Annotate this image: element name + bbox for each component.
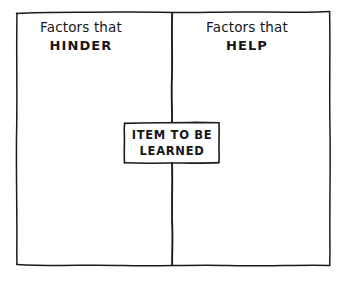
center-box-top-edge (125, 122, 219, 123)
column-label-hinder: Factors that HINDER (18, 21, 144, 52)
center-box-line1: ITEM TO BE (132, 128, 213, 144)
frame-left-edge (16, 13, 17, 264)
column-label-help-line2: HELP (186, 39, 308, 52)
column-label-hinder-line1: Factors that (18, 21, 144, 35)
center-box-line2: LEARNED (140, 144, 205, 160)
frame-right-edge (330, 12, 331, 265)
column-label-hinder-line2: HINDER (18, 39, 144, 52)
column-label-help: Factors that HELP (186, 21, 308, 52)
divider-upper-segment (172, 13, 173, 122)
center-box-bottom-edge (124, 163, 218, 164)
column-label-help-line1: Factors that (186, 21, 308, 35)
item-to-be-learned-box: ITEM TO BE LEARNED (125, 125, 219, 162)
